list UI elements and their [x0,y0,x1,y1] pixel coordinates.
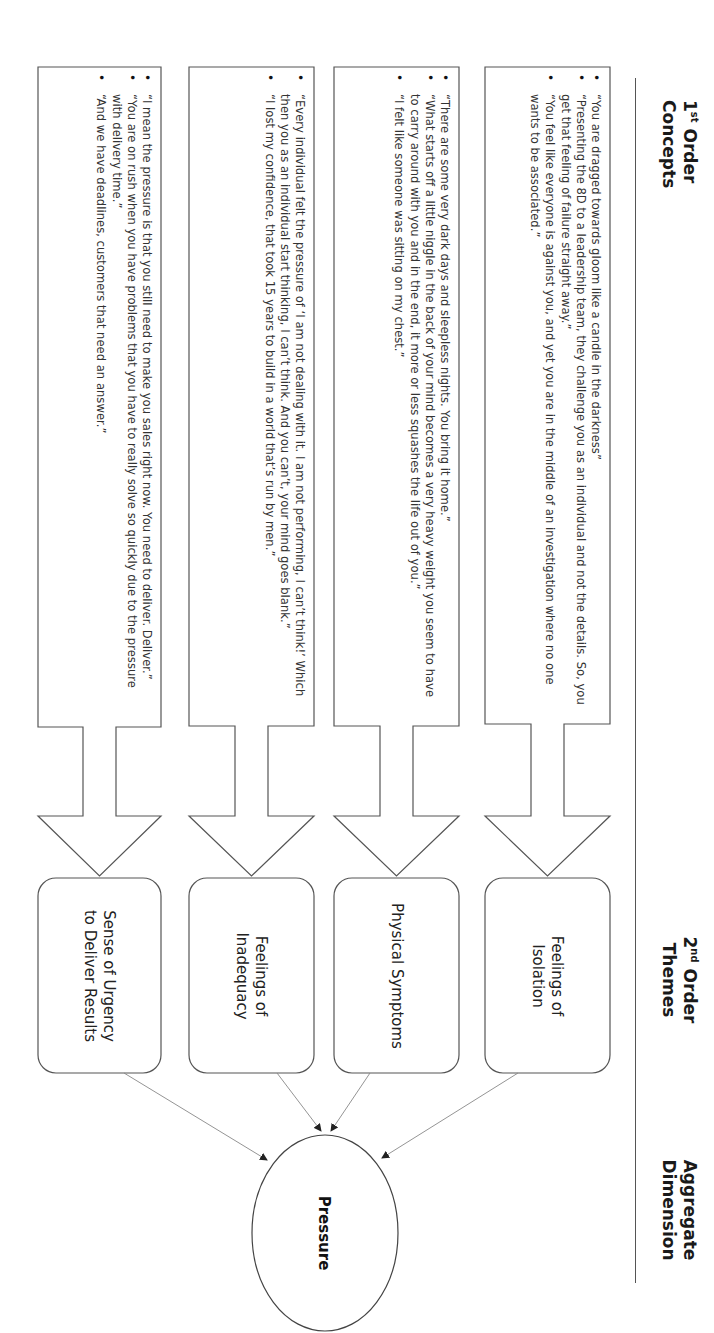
quote-item: “Every individual felt the pressure of ‘… [277,72,307,712]
quote-item: “What starts off a little niggle in the … [406,72,436,712]
quote-list: “I mean the pressure is that you still n… [93,72,154,712]
quote-list: “Every individual felt the pressure of ‘… [261,72,307,712]
quote-item: “There are some very dark days and sleep… [437,72,452,712]
diagram-stage: 1st Order Concepts 2nd Order Themes Aggr… [0,0,714,1333]
concepts-box-inadequacy: “Every individual felt the pressure of ‘… [261,72,307,712]
quote-list: “There are some very dark days and sleep… [391,72,452,712]
theme-line: Physical Symptoms [387,903,406,1049]
quote-item: “I lost my confidence, that took 15 year… [261,72,276,712]
theme-line: Inadequacy [233,932,252,1019]
theme-urgency: Sense of Urgency to Deliver Results [38,880,161,1072]
theme-isolation: Feelings of Isolation [485,880,610,1072]
theme-line: Isolation [529,936,548,1017]
quote-item: “You are on rush when you have problems … [108,72,138,712]
theme-line: Sense of Urgency [100,910,119,1042]
connector-physical [331,1073,370,1131]
quote-item: “You are dragged towards gloom like a ca… [588,72,603,712]
theme-line: Feelings of [548,936,567,1017]
concepts-box-physical: “There are some very dark days and sleep… [391,72,452,712]
theme-physical-symptoms: Physical Symptoms [334,880,459,1072]
concepts-box-isolation: “You are dragged towards gloom like a ca… [527,72,603,712]
connector-inadequacy [277,1073,321,1131]
quote-item: “And we have deadlines, customers that n… [93,72,108,712]
quote-item: “Presenting the 8D to a leadership team,… [557,72,587,712]
theme-line: Feelings of [252,932,271,1019]
theme-inadequacy: Feelings of Inadequacy [189,880,314,1072]
quote-item: “You feel like everyone is against you, … [527,72,557,712]
theme-line: to Deliver Results [81,910,100,1042]
connector-urgency [124,1073,267,1160]
connector-isolation [382,1073,518,1158]
concepts-box-urgency: “I mean the pressure is that you still n… [93,72,154,712]
quote-item: “I felt like someone was sitting on my c… [391,72,406,712]
quote-list: “You are dragged towards gloom like a ca… [527,72,603,712]
aggregate-dimension-label: Pressure [252,1136,396,1330]
quote-item: “I mean the pressure is that you still n… [139,72,154,712]
